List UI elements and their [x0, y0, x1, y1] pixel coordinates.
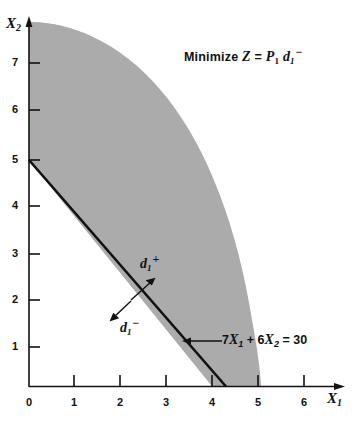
objective-d-symbol: d	[283, 49, 290, 64]
y-tick-label-2: 2	[8, 293, 22, 305]
goal-programming-graph: X2 X1 7 6 5 4 3 2 1 0 1 2 3 4 5 6 Minimi…	[0, 0, 359, 427]
constraint-coef1: 7	[222, 333, 229, 347]
y-axis-title-sub: 2	[16, 22, 21, 33]
deviation-negative-arrow	[110, 301, 132, 321]
y-tick-label-7: 7	[8, 56, 22, 68]
x-axis-arrowhead	[334, 383, 345, 390]
x-axis-title-base: X	[327, 390, 337, 406]
deviation-positive-base: d	[140, 256, 147, 271]
y-tick-label-6: 6	[8, 103, 22, 115]
deviation-negative-label: d1−	[120, 320, 138, 336]
x-tick-label-0: 0	[22, 396, 36, 408]
deviation-negative-sup: −	[133, 316, 140, 330]
x-tick-label-5: 5	[251, 396, 265, 408]
x-tick-label-1: 1	[67, 396, 81, 408]
x-axis-title: X1	[327, 390, 342, 407]
constraint-plus: +	[247, 333, 254, 347]
x-tick-label-2: 2	[113, 396, 127, 408]
y-axis-title-base: X	[6, 15, 16, 31]
constraint-rhs: 30	[293, 333, 307, 347]
constraint-equals: =	[282, 333, 289, 347]
constraint-var1-sub: 1	[238, 339, 243, 349]
deviation-negative-base: d	[120, 320, 127, 335]
objective-d-sub: 1	[290, 56, 295, 66]
x-tick-label-3: 3	[159, 396, 173, 408]
objective-d-term: d1−	[283, 49, 302, 64]
x-tick-label-4: 4	[205, 396, 219, 408]
objective-equals: =	[255, 50, 263, 64]
deviation-negative-sub: 1	[127, 327, 132, 337]
constraint-coef2: 6	[258, 333, 265, 347]
objective-minimize-word: Minimize	[184, 50, 238, 64]
x-tick-label-6: 6	[297, 396, 311, 408]
constraint-var1: X	[229, 332, 238, 347]
y-tick-label-5: 5	[8, 153, 22, 165]
y-tick-label-4: 4	[8, 199, 22, 211]
constraint-equation-label: 7X1 + 6X2 = 30	[222, 332, 307, 348]
deviation-positive-sup: +	[153, 252, 160, 266]
objective-d-sup: −	[296, 45, 303, 59]
deviation-positive-sub: 1	[147, 263, 152, 273]
plot-area	[0, 0, 359, 427]
y-axis-title: X2	[6, 15, 21, 32]
y-axis-arrowhead	[26, 16, 33, 27]
y-tick-label-1: 1	[8, 340, 22, 352]
x-axis-ticks	[74, 375, 304, 386]
constraint-var2-sub: 2	[274, 339, 279, 349]
objective-p-sub: 1	[274, 56, 279, 66]
x-axis-title-sub: 1	[337, 397, 342, 408]
objective-z-symbol: Z	[242, 49, 251, 64]
objective-p-term: P1	[266, 49, 279, 64]
constraint-var2: X	[265, 332, 274, 347]
deviation-positive-label: d1+	[140, 256, 158, 272]
y-tick-label-3: 3	[8, 247, 22, 259]
objective-function-label: Minimize Z = P1 d1−	[184, 49, 302, 65]
